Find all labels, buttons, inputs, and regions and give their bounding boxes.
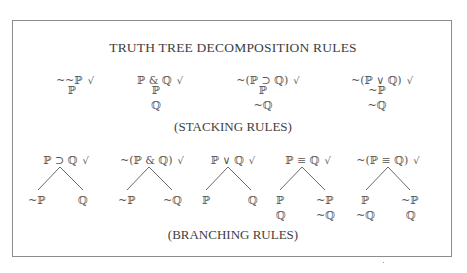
- result: ℙ: [68, 85, 76, 96]
- scan-speck: [383, 262, 384, 263]
- left-branch: ~ℙ: [118, 195, 136, 206]
- page-title: TRUTH TREE DECOMPOSITION RULES: [109, 41, 357, 55]
- right-branch: ℚ: [406, 210, 416, 221]
- premise: ℙ ⊃ ℚ: [43, 154, 77, 167]
- check-mark-icon: √: [407, 75, 413, 86]
- check-mark-icon: √: [249, 155, 255, 166]
- check-mark-icon: √: [413, 155, 419, 166]
- left-branch: ℚ: [276, 210, 286, 221]
- branching-rules-label: (BRANCHING RULES): [168, 228, 298, 241]
- check-mark-icon: √: [88, 75, 94, 86]
- left-branch: ~ℙ: [28, 195, 46, 206]
- right-branch: ℚ: [248, 195, 258, 206]
- left-branch: ~ℚ: [356, 210, 375, 221]
- check-mark-icon: √: [177, 75, 183, 86]
- result: ℙ: [152, 85, 160, 96]
- premise: ℙ ∨ ℚ: [211, 154, 244, 167]
- check-mark-icon: √: [178, 155, 184, 166]
- right-branch: ~ℚ: [316, 210, 335, 221]
- right-branch: ~ℚ: [163, 195, 182, 206]
- check-mark-icon: √: [293, 75, 299, 86]
- left-branch: ℙ: [202, 195, 210, 206]
- premise: ℙ ≡ ℚ: [285, 154, 319, 167]
- check-mark-icon: √: [324, 155, 330, 166]
- right-branch: ℚ: [78, 195, 88, 206]
- result: ℚ: [151, 100, 161, 111]
- result: ~ℙ: [368, 85, 386, 96]
- rules-frame: [12, 20, 452, 257]
- result: ℙ: [259, 85, 267, 96]
- premise: ~(ℙ & ℚ): [120, 154, 172, 167]
- result: ~ℚ: [368, 100, 387, 111]
- result: ~ℚ: [254, 100, 273, 111]
- right-branch: ~ℙ: [316, 195, 334, 206]
- left-branch: ℙ: [361, 195, 369, 206]
- check-mark-icon: √: [82, 155, 88, 166]
- stacking-rules-label: (STACKING RULES): [174, 120, 292, 133]
- left-branch: ℙ: [276, 195, 284, 206]
- right-branch: ~ℙ: [401, 195, 419, 206]
- premise: ~(ℙ ≡ ℚ): [356, 154, 408, 167]
